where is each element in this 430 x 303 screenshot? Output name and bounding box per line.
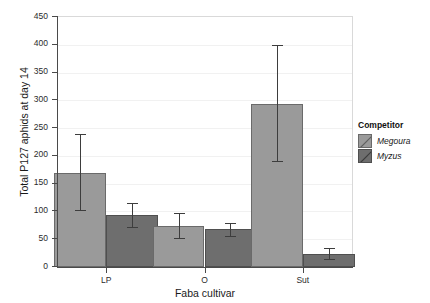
x-tick-mark-lp <box>106 268 107 273</box>
y-tick-mark-100 <box>52 210 57 211</box>
errorbar-lp-myzus <box>132 203 133 227</box>
legend-item-megoura[interactable]: Megoura <box>358 133 428 148</box>
errorcap-top-sut-myzus <box>324 248 335 249</box>
errorbar-sut-megoura <box>277 45 278 161</box>
gridline-300 <box>57 100 352 101</box>
errorcap-bottom-lp-megoura <box>75 210 86 211</box>
legend-label-myzus: Myzus <box>377 151 402 161</box>
legend-label-megoura: Megoura <box>377 136 411 146</box>
y-tick-mark-150 <box>52 183 57 184</box>
y-tick-mark-350 <box>52 72 57 73</box>
legend-title: Competitor <box>358 120 428 130</box>
errorcap-top-sut-megoura <box>272 45 283 46</box>
legend-swatch-megoura-icon <box>358 134 372 148</box>
gridline-200 <box>57 156 352 157</box>
y-tick-mark-450 <box>52 16 57 17</box>
errorbar-sut-myzus <box>329 248 330 260</box>
errorcap-bottom-o-myzus <box>225 236 236 237</box>
x-tick-mark-sut <box>303 268 304 273</box>
gridline-250 <box>57 128 352 129</box>
errorcap-bottom-lp-myzus <box>127 227 138 228</box>
y-tick-mark-250 <box>52 127 57 128</box>
y-tick-mark-50 <box>52 238 57 239</box>
errorcap-top-lp-myzus <box>127 203 138 204</box>
errorcap-top-lp-megoura <box>75 134 86 135</box>
legend: Competitor Megoura Myzus <box>358 120 428 163</box>
y-tick-mark-400 <box>52 44 57 45</box>
errorbar-lp-megoura <box>80 134 81 210</box>
errorcap-bottom-o-megoura <box>174 238 185 239</box>
bar-chart-figure: 450 400 350 300 250 200 150 100 50 0 LP … <box>0 0 430 303</box>
y-axis-title: Total P127 aphids at day 14 <box>18 22 30 242</box>
errorbar-o-megoura <box>179 213 180 237</box>
x-axis-title: Faba cultivar <box>57 287 353 299</box>
x-tick-label-lp: LP <box>76 275 136 285</box>
errorcap-top-o-myzus <box>225 223 236 224</box>
x-tick-label-sut: Sut <box>273 275 333 285</box>
x-tick-label-o: O <box>175 275 235 285</box>
gridline-350 <box>57 73 352 74</box>
errorcap-bottom-sut-myzus <box>324 259 335 260</box>
y-tick-label-450: 450 <box>0 12 48 21</box>
errorbar-o-myzus <box>230 223 231 236</box>
gridline-400 <box>57 45 352 46</box>
y-axis-line <box>57 16 58 268</box>
errorcap-bottom-sut-megoura <box>272 161 283 162</box>
y-tick-label-0: 0 <box>0 262 48 271</box>
legend-item-myzus[interactable]: Myzus <box>358 148 428 163</box>
plot-area <box>57 16 353 267</box>
y-tick-mark-300 <box>52 99 57 100</box>
y-tick-mark-0 <box>52 266 57 267</box>
x-tick-mark-o <box>205 268 206 273</box>
errorcap-top-o-megoura <box>174 213 185 214</box>
y-tick-mark-200 <box>52 155 57 156</box>
legend-swatch-myzus-icon <box>358 149 372 163</box>
